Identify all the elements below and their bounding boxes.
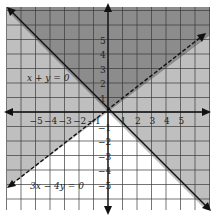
x-tick-label: 5 <box>179 116 185 126</box>
y-tick-label: −1 <box>98 123 111 133</box>
inequality-graph: −5−4−3−2−112345 54321−1−2−3−4−5 x + y = … <box>0 0 216 217</box>
y-axis-down-arrow-icon <box>104 206 112 215</box>
x-tick-label: 1 <box>121 116 127 126</box>
x-tick-label: 2 <box>135 116 141 126</box>
y-tick-label: 1 <box>100 94 106 104</box>
y-tick-label: −4 <box>98 166 112 176</box>
y-tick-label: 3 <box>100 65 106 75</box>
y-tick-label: 2 <box>100 79 106 89</box>
y-tick-label: 4 <box>100 50 106 60</box>
y-tick-label: −2 <box>98 137 111 147</box>
x-tick-label: −2 <box>73 116 86 126</box>
y-tick-label: −3 <box>98 152 112 162</box>
label-line2: 3x − 4y = 0 <box>30 181 84 191</box>
x-tick-label: 4 <box>164 116 170 126</box>
x-tick-label: −4 <box>44 116 58 126</box>
label-line1: x + y = 0 <box>27 73 70 83</box>
x-tick-label: −5 <box>30 116 44 126</box>
x-tick-label: 3 <box>150 116 156 126</box>
y-tick-label: 5 <box>100 36 106 46</box>
y-tick-label: −5 <box>98 181 112 191</box>
x-tick-label: −3 <box>59 116 73 126</box>
